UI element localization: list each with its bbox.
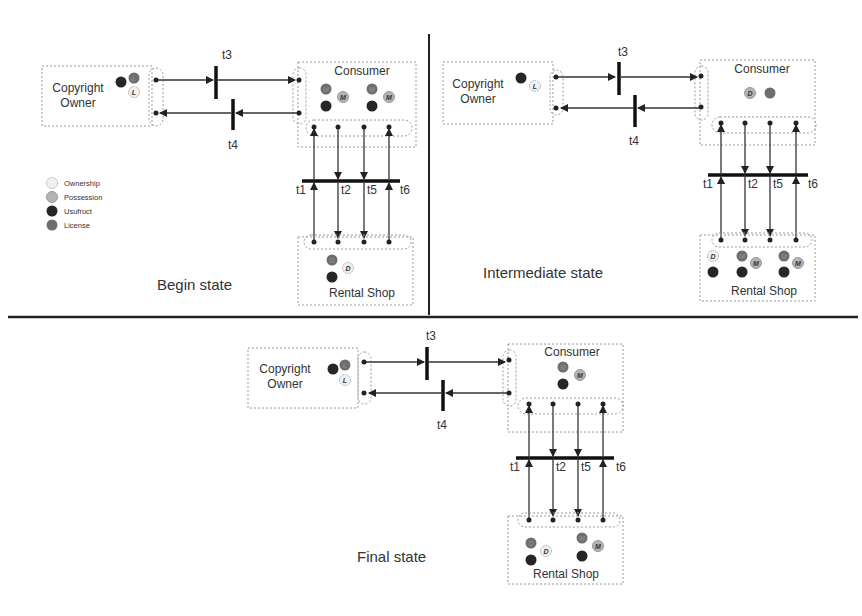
legend-possession-icon xyxy=(47,192,58,203)
svg-text:D: D xyxy=(710,253,715,260)
t2-label: t2 xyxy=(748,177,758,191)
t3-label: t3 xyxy=(618,45,628,59)
t4-label: t4 xyxy=(228,138,238,152)
legend-ownership-label: Ownership xyxy=(64,179,100,188)
svg-text:D: D xyxy=(345,265,350,272)
svg-text:M: M xyxy=(739,253,745,260)
t1-label: t1 xyxy=(510,460,520,474)
t3-label: t3 xyxy=(222,48,232,62)
svg-text:M: M xyxy=(386,94,392,101)
rental-shop-label: Rental Shop xyxy=(329,286,395,300)
begin-state-label: Begin state xyxy=(157,276,232,293)
final-state-label: Final state xyxy=(357,548,426,565)
t5-label: t5 xyxy=(773,177,783,191)
copyright-owner-label-2: Owner xyxy=(60,96,95,110)
t6-label: t6 xyxy=(616,460,626,474)
t3-label: t3 xyxy=(426,329,436,343)
t6-label: t6 xyxy=(808,177,818,191)
legend-usufruct-label: Usufruct xyxy=(64,207,93,216)
copyright-owner-label-2: Owner xyxy=(267,377,302,391)
svg-text:M: M xyxy=(340,94,346,101)
svg-text:M: M xyxy=(369,86,375,93)
consumer-label: Consumer xyxy=(544,345,599,359)
panel-intermediate-state: Copyright Owner L Consumer D t3 t4 xyxy=(443,45,818,301)
t1-label: t1 xyxy=(296,183,306,197)
copyright-owner-label-1: Copyright xyxy=(52,81,104,95)
svg-text:L: L xyxy=(132,75,136,82)
svg-text:M: M xyxy=(595,543,601,550)
svg-text:M: M xyxy=(323,86,329,93)
t2-label: t2 xyxy=(556,460,566,474)
legend-usufruct-icon xyxy=(47,206,58,217)
svg-text:M: M xyxy=(795,260,801,267)
consumer-label: Consumer xyxy=(334,64,389,78)
t4-label: t4 xyxy=(437,418,447,432)
svg-text:L: L xyxy=(343,362,347,369)
t6-label: t6 xyxy=(400,183,410,197)
panel-begin-state: Copyright Owner L L Consumer M M M M t3 xyxy=(42,48,416,305)
svg-text:D: D xyxy=(747,90,752,97)
panel-final-state: Copyright Owner L L Consumer M M t3 t4 xyxy=(248,329,626,584)
legend-ownership-icon xyxy=(47,178,58,189)
svg-text:D: D xyxy=(528,540,533,547)
t1-label: t1 xyxy=(703,177,713,191)
legend-possession-label: Possession xyxy=(64,193,102,202)
legend-license-icon xyxy=(47,220,58,231)
port-owner xyxy=(149,68,163,126)
token-usufruct xyxy=(116,77,127,88)
copyright-owner-label-2: Owner xyxy=(460,92,495,106)
svg-text:L: L xyxy=(533,83,537,90)
svg-text:M: M xyxy=(579,535,585,542)
svg-text:L: L xyxy=(132,89,136,96)
legend-license-label: License xyxy=(64,221,90,230)
t4-label: t4 xyxy=(629,134,639,148)
t5-label: t5 xyxy=(367,183,377,197)
intermediate-state-label: Intermediate state xyxy=(483,264,603,281)
svg-text:D: D xyxy=(329,257,334,264)
consumer-label: Consumer xyxy=(734,62,789,76)
svg-text:M: M xyxy=(753,260,759,267)
petri-net-diagram: Copyright Owner L L Consumer M M M M t3 xyxy=(0,0,862,616)
svg-text:M: M xyxy=(577,372,583,379)
copyright-owner-label-1: Copyright xyxy=(259,362,311,376)
copyright-owner-label-1: Copyright xyxy=(452,77,504,91)
legend: Ownership Possession Usufruct License xyxy=(47,178,103,231)
rental-shop-label: Rental Shop xyxy=(731,284,797,298)
t5-label: t5 xyxy=(581,460,591,474)
t2-label: t2 xyxy=(341,183,351,197)
svg-text:M: M xyxy=(560,364,566,371)
svg-text:L: L xyxy=(343,377,347,384)
svg-text:D: D xyxy=(543,548,548,555)
svg-text:M: M xyxy=(781,253,787,260)
rental-shop-label: Rental Shop xyxy=(533,567,599,581)
